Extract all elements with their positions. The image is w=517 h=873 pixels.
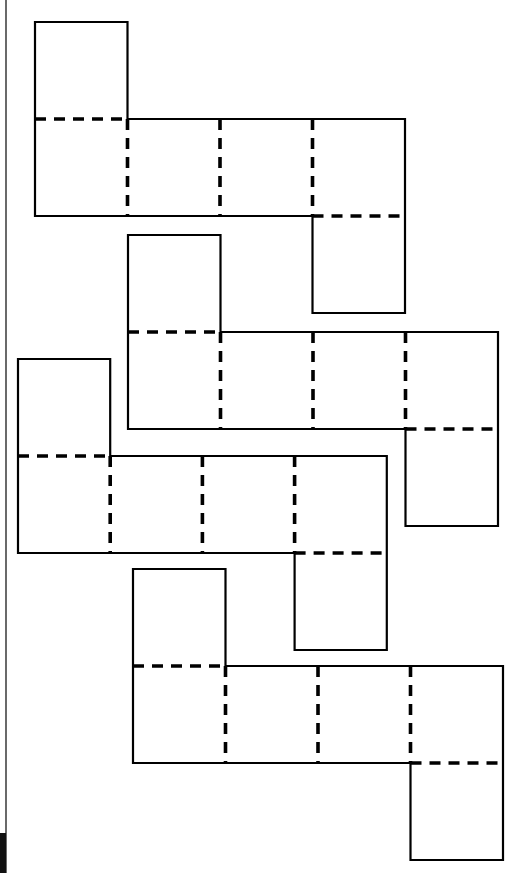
nets-layer (18, 22, 503, 860)
cube-net (18, 359, 387, 650)
page-edge-mark (0, 833, 6, 873)
cube-nets-diagram (0, 0, 517, 873)
cube-net (133, 569, 503, 860)
